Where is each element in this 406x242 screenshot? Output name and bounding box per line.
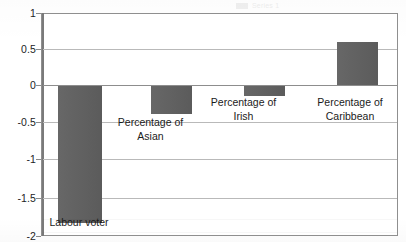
y-tick-label: 0 bbox=[2, 79, 36, 91]
legend-color-swatch bbox=[236, 3, 248, 9]
bar-label-percentage-irish: Percentage of Irish bbox=[186, 96, 301, 123]
bar-label-percentage-caribbean: Percentage of Caribbean bbox=[298, 96, 402, 123]
y-tick-label: 1 bbox=[2, 7, 36, 19]
y-tick-label: 0.5 bbox=[2, 43, 36, 55]
bar-label-line-2: Caribbean bbox=[298, 110, 402, 124]
bar-label-labour-voter: Labour voter bbox=[24, 216, 134, 230]
y-tick-label: -1.5 bbox=[2, 192, 36, 204]
bar-label-line-2: Irish bbox=[186, 110, 301, 124]
y-tick-mark bbox=[36, 236, 41, 237]
bar-label-line-2: Asian bbox=[93, 130, 208, 144]
y-axis: 1 0.5 0 -0.5 -1 -1.5 -2 bbox=[0, 0, 36, 242]
bar-label-line-1: Percentage of bbox=[298, 96, 402, 110]
y-tick-label: -0.5 bbox=[2, 116, 36, 128]
y-tick-label: -1 bbox=[2, 153, 36, 165]
bar-labour-voter bbox=[58, 86, 102, 223]
bar-percentage-caribbean bbox=[337, 42, 378, 85]
y-tick-label: -2 bbox=[2, 230, 36, 242]
chart-legend: Series 1 bbox=[236, 1, 396, 10]
scan-artifact bbox=[43, 232, 397, 233]
bar-label-line-1: Labour voter bbox=[24, 216, 134, 230]
bar-chart: Series 1 1 0.5 0 -0.5 -1 -1.5 -2 bbox=[0, 0, 406, 242]
bar-percentage-irish bbox=[244, 86, 285, 96]
bar-label-line-1: Percentage of bbox=[186, 96, 301, 110]
legend-label: Series 1 bbox=[252, 2, 279, 9]
